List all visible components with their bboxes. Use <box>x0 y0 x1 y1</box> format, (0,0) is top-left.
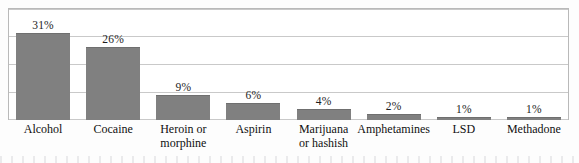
bar-value-label: 1% <box>437 103 491 115</box>
category-label: Cocaine <box>74 122 152 136</box>
bar-value-label: 26% <box>86 33 140 45</box>
category-label: Heroin or morphine <box>144 122 222 150</box>
category-label: Amphetamines <box>355 122 433 136</box>
category-label: LSD <box>425 122 503 136</box>
bars-layer: 31%26%9%6%4%2%1%1% <box>8 8 569 120</box>
bar <box>226 103 280 120</box>
bar-value-label: 4% <box>297 95 351 107</box>
bar <box>367 114 421 120</box>
category-label: Aspirin <box>214 122 292 136</box>
bar-slot: 1% <box>507 8 561 120</box>
bar-slot: 6% <box>226 8 280 120</box>
category-label: Alcohol <box>4 122 82 136</box>
bar <box>16 33 70 120</box>
bar-slot: 31% <box>16 8 70 120</box>
bar-value-label: 1% <box>507 103 561 115</box>
bar <box>507 117 561 120</box>
bar-value-label: 2% <box>367 100 421 112</box>
scan-artifact-strip <box>0 156 579 163</box>
category-label: Methadone <box>495 122 573 136</box>
bar-slot: 9% <box>156 8 210 120</box>
bar-slot: 2% <box>367 8 421 120</box>
bar-slot: 26% <box>86 8 140 120</box>
bar <box>156 95 210 120</box>
bar <box>86 47 140 120</box>
bar-slot: 1% <box>437 8 491 120</box>
bar <box>297 109 351 120</box>
bar-value-label: 31% <box>16 19 70 31</box>
bar <box>437 117 491 120</box>
bar-value-label: 9% <box>156 81 210 93</box>
bar-chart: 31%26%9%6%4%2%1%1% AlcoholCocaineHeroin … <box>0 0 579 163</box>
bar-value-label: 6% <box>226 89 280 101</box>
bar-slot: 4% <box>297 8 351 120</box>
category-label: Marijuana or hashish <box>285 122 363 150</box>
